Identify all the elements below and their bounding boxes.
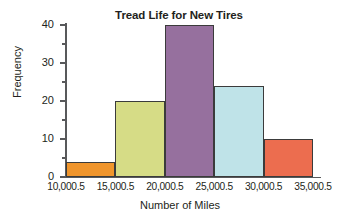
x-axis-tick-labels: 10,000.515,000.520,000.525,000.530,000.5… (0, 181, 358, 197)
histogram-bar (214, 86, 263, 177)
y-tick-label: 30 (10, 57, 54, 68)
x-axis-title: Number of Miles (40, 199, 320, 211)
x-tick-label: 35,000.5 (283, 181, 343, 192)
y-tick-label: 10 (10, 133, 54, 144)
histogram-bar (115, 101, 164, 177)
y-tick-label: 40 (10, 19, 54, 30)
y-tick-label: 20 (10, 95, 54, 106)
histogram-bar (66, 162, 115, 177)
histogram-bar (165, 25, 214, 177)
bars-group (66, 25, 313, 177)
y-axis-title: Frequency (11, 17, 23, 127)
histogram-figure: Tread Life for New Tires Frequency 01020… (0, 0, 358, 222)
histogram-bar (264, 139, 313, 177)
